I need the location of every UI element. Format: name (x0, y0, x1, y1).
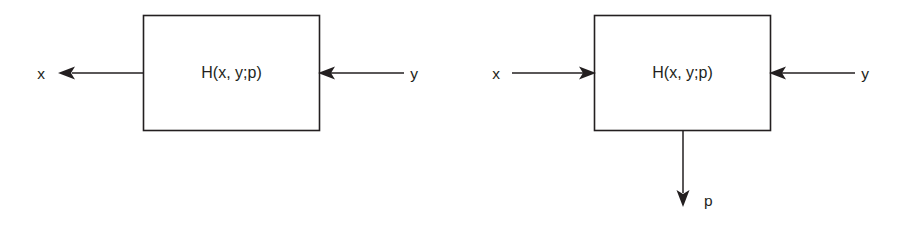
left-block-label: H(x, y;p) (201, 64, 261, 81)
block-diagram-figure: H(x, y;p) x y H(x, y;p) x y (0, 0, 901, 232)
left-input-y-label: y (410, 65, 418, 82)
right-input-y-label: y (861, 65, 869, 82)
right-input-x-label: x (492, 65, 500, 82)
figure-canvas: H(x, y;p) x y H(x, y;p) x y (0, 0, 901, 232)
left-output-x-label: x (37, 65, 45, 82)
left-diagram: H(x, y;p) x y (37, 16, 418, 131)
right-block-label: H(x, y;p) (652, 64, 712, 81)
right-diagram: H(x, y;p) x y p (492, 16, 869, 210)
right-output-p-label: p (704, 192, 713, 209)
